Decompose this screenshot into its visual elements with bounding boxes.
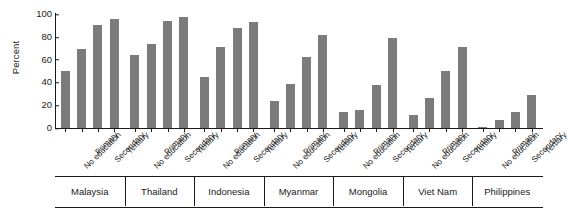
x-axis-label-tertiary: Tertiary xyxy=(544,131,568,156)
bar xyxy=(458,47,467,128)
y-axis-tick-80: 80 xyxy=(41,32,55,42)
bar xyxy=(339,112,348,128)
bar xyxy=(77,49,86,128)
x-axis-label-tertiary: Tertiary xyxy=(335,131,360,156)
country-separator xyxy=(125,177,126,206)
country-label-indonesia: Indonesia xyxy=(194,177,264,206)
x-axis-label-tertiary: Tertiary xyxy=(404,131,429,156)
y-axis-tick-40: 40 xyxy=(41,78,55,88)
bar xyxy=(130,55,139,128)
bar xyxy=(318,35,327,128)
x-axis-label-tertiary: Tertiary xyxy=(196,131,221,156)
bar xyxy=(302,57,311,128)
bar xyxy=(233,28,242,128)
y-axis-tick-20: 20 xyxy=(41,100,55,110)
bar xyxy=(61,71,70,128)
y-axis-tick-label: 100 xyxy=(36,9,52,19)
country-label-philippines: Philippines xyxy=(472,177,542,206)
bar xyxy=(409,115,418,128)
bar xyxy=(495,120,504,128)
country-group-band: MalaysiaThailandIndonesiaMyanmarMongolia… xyxy=(55,176,543,208)
country-separator xyxy=(403,177,404,206)
bar xyxy=(179,17,188,128)
bar xyxy=(425,98,434,128)
country-separator xyxy=(333,177,334,206)
country-label-thailand: Thailand xyxy=(125,177,195,206)
bar xyxy=(110,19,119,128)
y-axis-tick-mark xyxy=(55,128,59,129)
country-label-mongolia: Mongolia xyxy=(333,177,403,206)
bar xyxy=(93,25,102,128)
y-axis-tick-label: 40 xyxy=(41,78,52,88)
country-separator xyxy=(264,177,265,206)
bar xyxy=(270,101,279,128)
plot-area: 020406080100 xyxy=(55,14,542,128)
bar xyxy=(249,22,258,128)
x-axis-label-tertiary: Tertiary xyxy=(265,131,290,156)
y-axis-tick-100: 100 xyxy=(36,9,55,19)
y-axis-tick-label: 60 xyxy=(41,55,52,65)
x-axis-line xyxy=(55,128,543,129)
bar xyxy=(372,85,381,128)
country-separator xyxy=(472,177,473,206)
y-axis-tick-label: 80 xyxy=(41,32,52,42)
y-axis-tick-0: 0 xyxy=(47,123,55,133)
country-separator xyxy=(194,177,195,206)
bar xyxy=(511,112,520,128)
bar xyxy=(147,44,156,128)
y-axis-tick-60: 60 xyxy=(41,55,55,65)
x-axis-label-tertiary: Tertiary xyxy=(474,131,499,156)
bar xyxy=(355,110,364,128)
bar xyxy=(527,95,536,128)
country-label-malaysia: Malaysia xyxy=(55,177,125,206)
country-label-viet-nam: Viet Nam xyxy=(403,177,473,206)
bar xyxy=(163,21,172,128)
bar xyxy=(286,84,295,128)
x-axis-category-labels: No educationPrimarySecondaryTertiaryNo e… xyxy=(55,131,542,175)
bar-series-container xyxy=(55,14,542,128)
y-axis-tick-label: 20 xyxy=(41,100,52,110)
y-axis-tick-label: 0 xyxy=(47,123,52,133)
bar xyxy=(388,38,397,128)
bar xyxy=(200,77,209,128)
x-axis-label-tertiary: Tertiary xyxy=(126,131,151,156)
country-label-myanmar: Myanmar xyxy=(264,177,334,206)
y-axis-title: Percent xyxy=(10,27,21,89)
bar xyxy=(216,47,225,128)
bar xyxy=(441,71,450,128)
